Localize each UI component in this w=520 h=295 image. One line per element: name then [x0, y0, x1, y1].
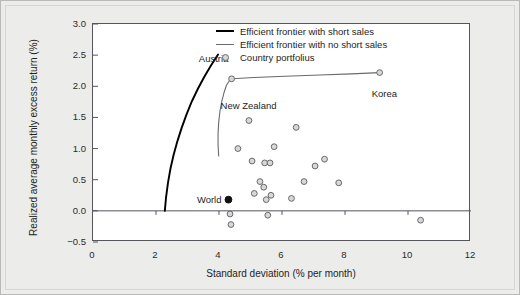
- y-tick-label: 0.0: [46, 204, 86, 215]
- country-portfolio-point: [227, 211, 233, 217]
- chart-figure: Realized average monthly excess return (…: [0, 0, 520, 295]
- legend-item: Efficient frontier with short sales: [214, 25, 387, 37]
- point-label: Korea: [372, 88, 397, 99]
- x-tick-label: 6: [278, 249, 283, 260]
- country-portfolio-point: [293, 124, 299, 130]
- country-portfolio-point: [312, 163, 318, 169]
- country-portfolio-point: [271, 144, 277, 150]
- country-portfolio-point: [418, 217, 424, 223]
- country-portfolio-point: [263, 197, 269, 203]
- y-tick-label: 2.5: [46, 49, 86, 60]
- efficient-frontier-curves: [165, 55, 380, 211]
- point-label: World: [197, 194, 222, 205]
- x-tick-label: 8: [341, 249, 346, 260]
- legend-item: Efficient frontier with no short sales: [214, 38, 387, 50]
- x-tick-label: 2: [152, 249, 157, 260]
- legend-item: Country portfolius: [214, 51, 387, 63]
- y-axis-title: Realized average monthly excess return (…: [28, 38, 39, 238]
- x-tick-label: 0: [89, 249, 94, 260]
- country-portfolio-point: [249, 158, 255, 164]
- legend-item-label: Country portfolius: [240, 52, 314, 63]
- country-portfolio-point: [229, 76, 235, 82]
- x-tick-label: 12: [465, 249, 476, 260]
- legend-item-label: Efficient frontier with short sales: [240, 26, 374, 37]
- country-portfolio-point: [336, 180, 342, 186]
- x-axis-title: Standard deviation (% per month): [92, 268, 470, 279]
- y-tick-label: 3.0: [46, 18, 86, 29]
- country-portfolio-point: [246, 118, 252, 124]
- country-portfolio-point: [235, 146, 241, 152]
- country-portfolio-point: [261, 184, 267, 190]
- legend-line-thick-icon: [214, 30, 236, 32]
- country-portfolio-point: [377, 70, 383, 76]
- country-portfolio-point: [268, 192, 274, 198]
- country-portfolio-point: [289, 196, 295, 202]
- world-portfolio-point: [225, 196, 232, 203]
- x-axis-tick-marks: [156, 211, 408, 215]
- country-portfolio-point: [257, 179, 263, 185]
- point-label: New Zealand: [221, 100, 277, 111]
- y-tick-label: 1.0: [46, 142, 86, 153]
- y-tick-label: 1.5: [46, 111, 86, 122]
- x-tick-label: 4: [215, 249, 220, 260]
- legend-item-label: Efficient frontier with no short sales: [240, 39, 387, 50]
- country-portfolio-point: [267, 160, 273, 166]
- legend-line-thin-icon: [214, 44, 236, 45]
- legend-circle-marker-icon: [214, 54, 236, 61]
- x-tick-label: 10: [402, 249, 413, 260]
- y-axis-tick-marks: [93, 24, 98, 242]
- country-portfolio-point: [228, 222, 234, 228]
- country-portfolio-point: [251, 191, 257, 197]
- country-portfolio-point: [301, 179, 307, 185]
- y-tick-label: 0.5: [46, 173, 86, 184]
- y-tick-label: −0.5: [46, 236, 86, 247]
- y-tick-label: 2.0: [46, 80, 86, 91]
- country-portfolio-point: [265, 212, 271, 218]
- country-portfolio-point: [322, 156, 328, 162]
- chart-legend: Efficient frontier with short salesEffic…: [214, 25, 387, 64]
